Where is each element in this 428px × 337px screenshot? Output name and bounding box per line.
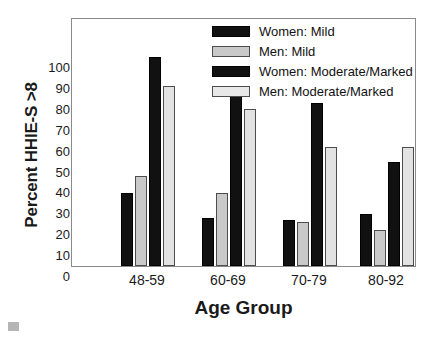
y-axis-tick-60: 60 (40, 143, 70, 158)
y-axis-tick-100: 100 (40, 60, 70, 75)
legend-item: Men: Mild (212, 42, 416, 61)
bar (149, 57, 161, 266)
legend-swatch-icon (212, 26, 250, 37)
chart-figure: Percent HHIE-S >8 0102030405060708090100… (0, 0, 428, 337)
bar (311, 103, 323, 266)
y-axis-tick-labels: 0102030405060708090100 (40, 48, 70, 276)
y-axis-tick-90: 90 (40, 80, 70, 95)
bar (230, 90, 242, 266)
legend-swatch-icon (212, 46, 250, 57)
legend-item: Men: Moderate/Marked (212, 82, 416, 101)
y-axis-tick-80: 80 (40, 101, 70, 116)
y-axis-title: Percent HHIE-S >8 (22, 45, 42, 265)
y-axis-tick-20: 20 (40, 227, 70, 242)
legend-item: Women: Mild (212, 22, 416, 41)
x-axis-tick-80-92: 80-92 (341, 272, 428, 288)
bar (325, 147, 337, 266)
y-axis-tick-10: 10 (40, 248, 70, 263)
y-axis-tick-70: 70 (40, 122, 70, 137)
bar (244, 109, 256, 266)
x-axis-tick-48-59: 48-59 (102, 272, 192, 288)
legend-swatch-icon (212, 86, 250, 97)
bar (283, 220, 295, 266)
bar (135, 176, 147, 266)
legend-label: Women: Moderate/Marked (259, 64, 413, 79)
y-axis-tick-40: 40 (40, 185, 70, 200)
legend-label: Men: Moderate/Marked (259, 84, 393, 99)
bar (121, 193, 133, 266)
bar (163, 86, 175, 266)
bar (374, 230, 386, 266)
bar (297, 222, 309, 266)
y-axis-tick-30: 30 (40, 206, 70, 221)
y-axis-tick-0: 0 (40, 269, 70, 284)
bar (202, 218, 214, 266)
bar-group-48-59 (121, 57, 175, 266)
bar (388, 162, 400, 267)
bar (216, 193, 228, 266)
x-axis-tick-60-69: 60-69 (183, 272, 273, 288)
legend-label: Women: Mild (259, 24, 335, 39)
bar (360, 214, 372, 266)
scan-artifact (8, 322, 19, 331)
legend-swatch-icon (212, 66, 250, 77)
y-axis-tick-50: 50 (40, 164, 70, 179)
legend-item: Women: Moderate/Marked (212, 62, 416, 81)
legend-label: Men: Mild (259, 44, 315, 59)
bar (402, 147, 414, 266)
x-axis-title: Age Group (71, 297, 416, 319)
chart-legend: Women: MildMen: MildWomen: Moderate/Mark… (212, 22, 416, 102)
